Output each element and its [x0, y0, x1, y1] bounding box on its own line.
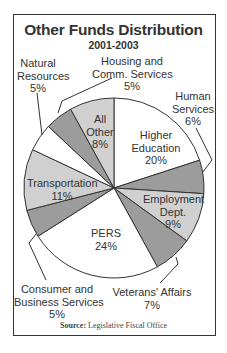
label-line: Business Services — [14, 296, 100, 309]
label-line: Services — [168, 103, 218, 116]
label-line: 24% — [86, 240, 126, 253]
label-housing: Housing and Comm. Services 5% — [92, 55, 172, 93]
label-line: Higher — [128, 129, 184, 142]
label-line: 6% — [168, 115, 218, 128]
label-employment: Employment Dept. 9% — [143, 193, 203, 231]
label-line: 8% — [84, 138, 116, 151]
label-higher-education: Higher Education 20% — [128, 129, 184, 167]
label-line: Transportation — [27, 177, 97, 190]
label-line: Natural — [17, 57, 59, 70]
label-line: Veterans' Affairs — [112, 286, 192, 299]
source-note: Source: Legislative Fiscal Office — [0, 321, 227, 330]
label-natural-resources: Natural Resources 5% — [17, 57, 59, 95]
label-line: PERS — [86, 227, 126, 240]
label-line: Housing and — [92, 55, 172, 68]
label-line: 7% — [112, 299, 192, 312]
label-line: 5% — [92, 80, 172, 93]
leader-natural-resources — [37, 93, 42, 135]
label-line: 11% — [27, 190, 97, 203]
label-transportation: Transportation 11% — [27, 177, 97, 202]
label-all-other: All Other 8% — [84, 113, 116, 151]
source-label: Source: — [60, 321, 86, 330]
label-pers: PERS 24% — [86, 227, 126, 252]
label-line: Resources — [17, 70, 59, 83]
label-line: Employment — [143, 193, 203, 206]
label-line: 5% — [17, 82, 59, 95]
label-line: 5% — [14, 308, 100, 321]
label-human-services: Human Services 6% — [168, 90, 218, 128]
label-line: 9% — [143, 218, 203, 231]
label-line: Human — [168, 90, 218, 103]
source-text: Legislative Fiscal Office — [88, 321, 167, 330]
label-line: 20% — [128, 154, 184, 167]
label-line: Dept. — [143, 206, 203, 219]
label-line: Comm. Services — [92, 68, 172, 81]
label-line: Consumer and — [14, 283, 100, 296]
label-line: Other — [84, 126, 116, 139]
label-consumer: Consumer and Business Services 5% — [14, 283, 100, 321]
label-line: Education — [128, 142, 184, 155]
label-veterans: Veterans' Affairs 7% — [112, 286, 192, 311]
label-line: All — [84, 113, 116, 126]
